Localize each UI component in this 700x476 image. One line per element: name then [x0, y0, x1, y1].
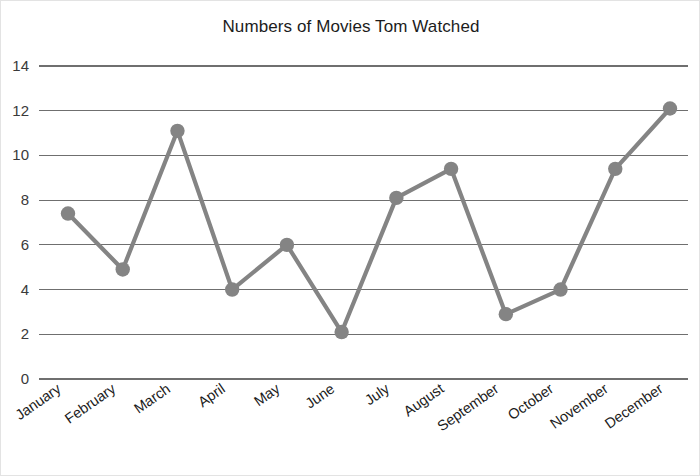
- x-axis-tick-label: July: [362, 380, 393, 408]
- x-axis-tick-label: December: [602, 380, 666, 432]
- y-axis-tick-label: 8: [21, 191, 29, 208]
- data-point-marker[interactable]: [663, 101, 677, 115]
- x-axis-tick-labels: JanuaryFebruaryMarchAprilMayJuneJulyAugu…: [12, 380, 666, 434]
- data-point-marker[interactable]: [334, 325, 348, 339]
- chart-card: Numbers of Movies Tom Watched 0246810121…: [0, 0, 700, 476]
- data-point-marker[interactable]: [225, 282, 239, 296]
- data-point-marker[interactable]: [280, 238, 294, 252]
- x-axis-tick-label: June: [302, 380, 337, 411]
- y-axis-tick-label: 4: [21, 281, 29, 298]
- y-axis-tick-label: 14: [12, 57, 29, 74]
- x-axis-tick-label: August: [401, 380, 447, 419]
- data-point-marker[interactable]: [608, 162, 622, 176]
- data-point-marker[interactable]: [499, 307, 513, 321]
- y-axis-tick-label: 12: [12, 102, 29, 119]
- data-point-marker[interactable]: [170, 124, 184, 138]
- y-axis-tick-label: 0: [21, 370, 29, 387]
- x-axis-tick-label: September: [434, 380, 501, 434]
- data-point-marker[interactable]: [61, 206, 75, 220]
- data-point-marker[interactable]: [553, 282, 567, 296]
- data-point-marker[interactable]: [444, 162, 458, 176]
- y-axis-tick-labels: 02468101214: [12, 57, 29, 387]
- data-point-marker[interactable]: [116, 262, 130, 276]
- data-point-markers: [61, 101, 677, 339]
- line-chart-plot: 02468101214 JanuaryFebruaryMarchAprilMay…: [1, 1, 700, 476]
- data-point-marker[interactable]: [389, 191, 403, 205]
- x-axis-tick-label: March: [131, 380, 173, 416]
- x-axis-tick-label: February: [62, 380, 119, 427]
- y-axis-tick-label: 10: [12, 146, 29, 163]
- x-axis-tick-label: November: [547, 380, 611, 432]
- y-axis-tick-label: 6: [21, 236, 29, 253]
- data-series-group: [68, 108, 670, 332]
- series-line: [68, 108, 670, 332]
- x-axis-tick-label: April: [195, 380, 228, 410]
- y-axis-tick-label: 2: [21, 325, 29, 342]
- x-axis-tick-label: May: [251, 380, 283, 409]
